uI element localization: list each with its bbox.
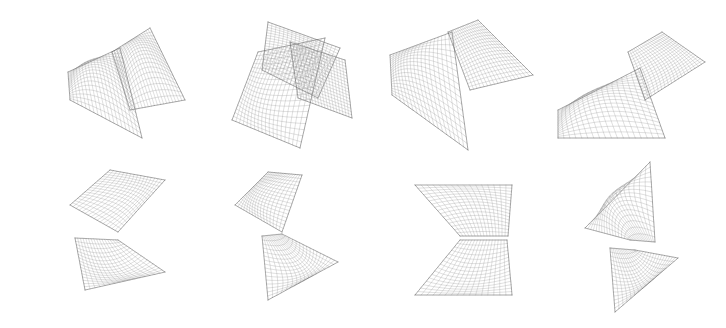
wireframe-figure (0, 0, 726, 328)
background (0, 0, 726, 328)
